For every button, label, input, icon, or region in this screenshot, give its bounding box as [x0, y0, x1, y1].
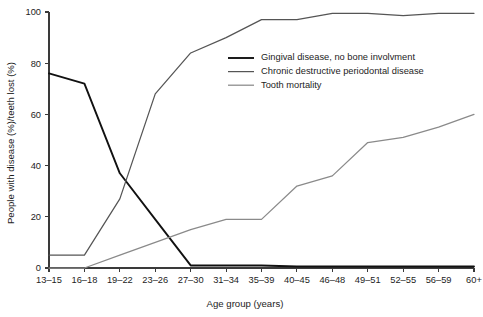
x-tick-label: 46–48 [319, 275, 345, 285]
chart-container: 020406080100 13–1516–1819–2223–2627–3031… [0, 0, 483, 317]
x-tick-label: 40–45 [284, 275, 310, 285]
x-tick-label: 16–18 [71, 275, 97, 285]
x-tick-label: 60+ [466, 275, 482, 285]
y-tick-label: 40 [31, 161, 41, 171]
y-tick-label: 80 [31, 59, 41, 69]
y-tick-label: 0 [36, 263, 41, 273]
x-tick-label: 27–30 [178, 275, 204, 285]
x-tick-label: 49–51 [355, 275, 381, 285]
y-axis-title: People with disease (%)/teeth lost (%) [5, 62, 16, 224]
y-tick-label: 60 [31, 110, 41, 120]
x-tick-label: 56–59 [426, 275, 452, 285]
x-tick-label: 52–55 [390, 275, 416, 285]
y-axis: 020406080100 [25, 7, 49, 273]
legend-label-3: Tooth mortality [261, 80, 322, 90]
x-axis: 13–1516–1819–2223–2627–3031–3435–3940–45… [36, 268, 482, 285]
x-tick-label: 13–15 [36, 275, 62, 285]
legend-label-2: Chronic destructive periodontal disease [261, 66, 424, 76]
series-line-3 [49, 114, 474, 268]
x-tick-label: 31–34 [213, 275, 239, 285]
series-line-1 [49, 73, 474, 266]
x-axis-title: Age group (years) [207, 298, 284, 309]
x-tick-label: 23–26 [142, 275, 168, 285]
y-tick-label: 20 [31, 212, 41, 222]
y-tick-label: 100 [25, 7, 41, 17]
x-tick-label: 19–22 [107, 275, 133, 285]
line-chart: 020406080100 13–1516–1819–2223–2627–3031… [0, 0, 483, 317]
x-tick-label: 35–39 [249, 275, 275, 285]
chart-legend: Gingival disease, no bone involvmentChro… [228, 52, 424, 89]
legend-label-1: Gingival disease, no bone involvment [261, 52, 415, 62]
